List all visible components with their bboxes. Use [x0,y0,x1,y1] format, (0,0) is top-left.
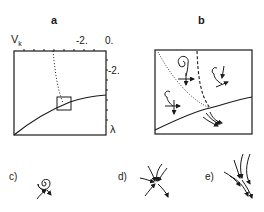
panel-c-graphic [37,179,51,199]
panel-b-dashed-curve [197,51,210,108]
panel-a-plot [14,49,108,135]
bifurcation-curve [14,95,106,135]
panel-b-solid-curve [155,97,252,130]
panel-d-graphic [140,164,168,197]
spiral-saddle-1 [178,56,194,85]
panel-b-dotted-curve [158,52,210,108]
zoom-box [57,97,71,110]
spiral-saddle-3 [165,91,180,114]
dotted-curve [53,51,63,103]
spiral-saddle-2 [212,66,228,87]
figure-graphics [0,0,264,212]
panel-b-plot [155,50,252,134]
panel-e-graphic [224,154,252,198]
flow-lines [203,112,222,126]
